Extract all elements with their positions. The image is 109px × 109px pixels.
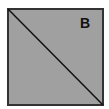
square-diagram xyxy=(0,0,109,109)
square-label: B xyxy=(80,16,90,30)
